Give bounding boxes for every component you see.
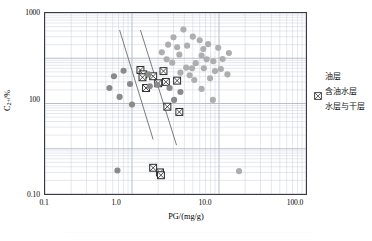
point-circle <box>212 68 218 74</box>
x-tick-label-1.0: 1.0 <box>102 198 130 207</box>
point-circle <box>236 168 242 174</box>
point-circle <box>205 41 211 47</box>
point-circle <box>177 70 183 76</box>
point-circle <box>169 60 175 66</box>
point-circle <box>165 42 171 48</box>
point-circle <box>159 49 165 55</box>
chart-legend: 油层 含油水层 水层与干层 <box>313 68 371 113</box>
point-circle <box>210 97 216 103</box>
legend-circle-dark-icon <box>313 101 322 110</box>
x-tick-label-10.0: 10.0 <box>189 198 221 207</box>
point-circle <box>191 77 197 83</box>
point-circle <box>176 52 182 58</box>
point-circle <box>187 72 193 78</box>
point-square-x <box>176 109 183 116</box>
point-circle <box>166 85 172 91</box>
point-circle <box>200 46 206 52</box>
x-axis-title-text: PG/(mg/g) <box>168 212 204 221</box>
point-circle <box>174 44 180 50</box>
y-axis-title-sub: 2+ <box>6 99 12 105</box>
y-axis-title-tail: /% <box>3 90 12 99</box>
chart-figure: 1000 100 0.10 0.1 1.0 10.0 100.0 PG/(mg/… <box>0 0 372 241</box>
point-circle <box>120 68 126 74</box>
point-circle <box>220 56 226 62</box>
point-circle <box>226 50 232 56</box>
point-circle <box>154 82 160 88</box>
point-circle <box>210 58 216 64</box>
bottom-rule-artifact <box>66 232 314 233</box>
point-circle <box>111 73 117 79</box>
data-points <box>45 13 306 194</box>
point-circle <box>129 101 135 107</box>
point-circle <box>117 94 123 100</box>
legend-item-oil-bearing-water-layer[interactable]: 含油水层 <box>313 83 371 98</box>
point-square-x <box>150 164 157 171</box>
point-circle <box>114 167 120 173</box>
point-square-x <box>162 78 169 85</box>
square-x-glyph <box>314 92 322 100</box>
point-circle <box>198 52 204 58</box>
x-tick-label-100.0: 100.0 <box>277 198 313 207</box>
x-tick-label-0.1: 0.1 <box>30 198 58 207</box>
point-square-x <box>139 74 146 81</box>
series-2 <box>106 68 183 174</box>
point-circle <box>204 56 210 62</box>
point-circle <box>190 34 196 40</box>
y-tick-label-1000: 1000 <box>2 8 40 17</box>
point-circle <box>189 65 195 71</box>
y-axis-title: C2+/% <box>3 75 12 127</box>
legend-square-x-icon <box>313 86 322 95</box>
legend-label-oil-layer: 油层 <box>325 70 341 81</box>
point-circle <box>201 65 207 71</box>
point-circle <box>170 34 176 40</box>
point-circle <box>106 85 112 91</box>
plot-area <box>44 12 307 195</box>
point-circle <box>218 66 224 72</box>
point-circle <box>127 81 133 87</box>
point-circle <box>224 71 230 77</box>
point-circle <box>171 97 177 103</box>
legend-item-oil-layer[interactable]: 油层 <box>313 68 371 83</box>
point-circle <box>215 45 221 51</box>
point-circle <box>184 43 190 49</box>
point-square-x <box>160 68 167 75</box>
point-circle <box>207 75 213 81</box>
point-circle <box>147 83 153 89</box>
legend-label-water-and-dry-layer: 水层与干层 <box>325 100 365 111</box>
point-circle <box>145 71 151 77</box>
point-circle <box>180 27 186 33</box>
point-circle <box>183 65 189 71</box>
legend-item-water-and-dry-layer[interactable]: 水层与干层 <box>313 98 371 113</box>
point-circle <box>198 86 204 92</box>
x-axis-title: PG/(mg/g) <box>0 212 372 221</box>
point-circle <box>177 89 183 95</box>
point-circle <box>197 37 203 43</box>
point-square-x <box>157 172 164 179</box>
y-axis-title-main: C <box>3 106 12 112</box>
point-square-x <box>174 77 181 84</box>
point-circle <box>164 56 170 62</box>
legend-circle-icon <box>313 71 322 80</box>
point-circle <box>193 60 199 66</box>
point-square-x <box>164 103 171 110</box>
legend-label-oil-bearing-water-layer: 含油水层 <box>325 85 357 96</box>
